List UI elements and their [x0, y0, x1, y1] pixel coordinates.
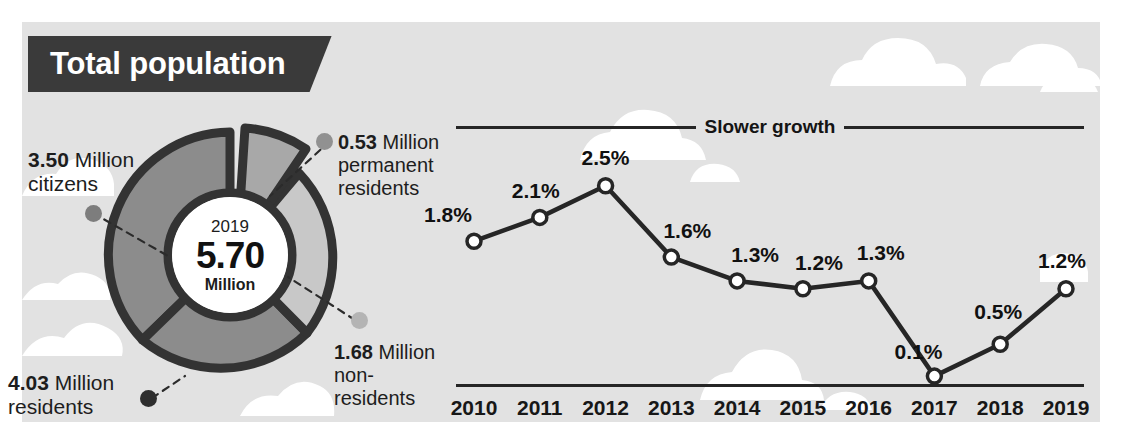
x-axis-label-2010: 2010	[451, 396, 498, 420]
callout-residents: 4.03 Million residents	[8, 371, 114, 420]
data-point-label: 1.3%	[857, 241, 905, 265]
donut-center-year: 2019	[211, 218, 249, 235]
callout-residents-dot	[140, 390, 157, 407]
chart-title-rule-right	[844, 126, 1084, 129]
callout-permanent-value: 0.53	[338, 131, 377, 153]
data-point-label: 1.2%	[1038, 249, 1086, 273]
infographic-root: Total population 2019 5.70 Million	[0, 0, 1121, 444]
data-point-marker[interactable]	[862, 274, 876, 288]
data-point-label: 0.1%	[895, 340, 943, 364]
callout-residents-value: 4.03	[8, 371, 49, 394]
chart-title-rule-left	[456, 126, 696, 129]
data-point-marker[interactable]	[467, 234, 481, 248]
callout-permanent-label-2: residents	[338, 177, 419, 199]
data-point-marker[interactable]	[664, 250, 678, 264]
x-axis-label-2014: 2014	[714, 396, 761, 420]
callout-nonres-unit: Million	[379, 341, 436, 363]
callout-nonres-label-1: non-	[334, 364, 374, 386]
x-axis-label-2019: 2019	[1043, 396, 1090, 420]
donut-center-unit: Million	[205, 277, 256, 293]
x-axis-label-2016: 2016	[845, 396, 892, 420]
x-axis-label-2018: 2018	[977, 396, 1024, 420]
data-point-label: 1.3%	[731, 243, 779, 267]
data-point-label: 0.5%	[974, 300, 1022, 324]
data-point-label: 1.2%	[795, 251, 843, 275]
callout-nonres-dot	[351, 312, 368, 329]
donut-center-label: 2019 5.70 Million	[172, 197, 288, 313]
callout-citizens-value: 3.50	[28, 148, 69, 171]
title-ribbon: Total population	[28, 36, 332, 92]
callout-permanent-dot	[316, 133, 333, 150]
chart-title: Slower growth	[705, 116, 836, 138]
callout-nonres-value: 1.68	[334, 341, 373, 363]
data-point-marker[interactable]	[796, 282, 810, 296]
x-axis-label-2012: 2012	[582, 396, 629, 420]
data-point-label: 2.1%	[512, 179, 560, 203]
data-point-marker[interactable]	[533, 210, 547, 224]
data-point-marker[interactable]	[730, 274, 744, 288]
x-axis-label-2017: 2017	[911, 396, 958, 420]
callout-nonres-label-2: residents	[334, 387, 415, 409]
data-point-label: 2.5%	[582, 146, 630, 170]
x-axis-label-2011: 2011	[517, 396, 563, 420]
x-axis-line	[456, 384, 1084, 387]
callout-citizens-dot	[85, 205, 102, 222]
callout-permanent-label-1: permanent	[338, 154, 434, 176]
callout-residents-label: residents	[8, 395, 93, 418]
donut-chart: 2019 5.70 Million	[95, 120, 365, 390]
callout-citizens: 3.50 Million citizens	[28, 148, 134, 197]
callout-citizens-label: citizens	[28, 172, 98, 195]
data-point-marker[interactable]	[1059, 282, 1073, 296]
callout-permanent-unit: Million	[383, 131, 440, 153]
callout-citizens-unit: Million	[75, 148, 135, 171]
data-point-label: 1.8%	[424, 203, 472, 227]
chart-title-row: Slower growth	[456, 116, 1084, 138]
x-axis-tick-labels: 2010201120122013201420152016201720182019	[456, 392, 1084, 426]
x-axis-label-2013: 2013	[648, 396, 695, 420]
data-point-marker[interactable]	[993, 337, 1007, 351]
growth-line-chart: Slower growth 20102011201220132014201520…	[440, 96, 1100, 444]
line-path	[474, 186, 1066, 376]
x-axis-label-2015: 2015	[780, 396, 827, 420]
callout-residents-unit: Million	[55, 371, 115, 394]
data-point-marker[interactable]	[927, 369, 941, 383]
page-title: Total population	[50, 46, 286, 82]
data-point-label: 1.6%	[663, 219, 711, 243]
donut-center-value: 5.70	[196, 237, 264, 274]
data-point-marker[interactable]	[599, 179, 613, 193]
